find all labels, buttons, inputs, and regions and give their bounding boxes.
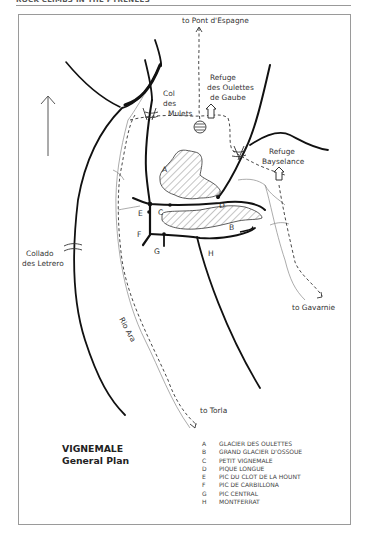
rivers — [113, 95, 305, 428]
legend-key: A — [202, 440, 219, 448]
legend-key: F — [202, 481, 219, 489]
legend-key: D — [202, 465, 219, 473]
legend-label: PIC DU CLOT DE LA HOUNT — [219, 473, 301, 481]
label-to-pont-despagne: to Pont d'Espagne — [182, 16, 249, 25]
label-refuge-oulettes-line3: de Gaube — [210, 93, 246, 102]
legend-item: HMONTFERRAT — [202, 498, 302, 506]
label-collado-des-letrero: Collado — [26, 249, 54, 258]
label-refuge-oulettes-line2: des Oulettes — [207, 83, 254, 92]
lake-icon — [194, 121, 206, 133]
map-title-line2: General Plan — [62, 455, 129, 467]
refuge-hut-icon — [206, 104, 284, 180]
point-label-f: F — [137, 230, 141, 239]
point-label-g: G — [154, 247, 160, 256]
label-refuge-oulettes: Refuge — [210, 73, 236, 82]
vignemale-map: to Pont d'Espagne Refuge des Oulettes de… — [0, 0, 366, 536]
map-title: VIGNEMALE General Plan — [62, 443, 129, 467]
legend-key: C — [202, 457, 219, 465]
glacier-a — [160, 150, 220, 199]
legend-item: CPETIT VIGNEMALE — [202, 457, 302, 465]
north-arrow-icon — [41, 96, 55, 156]
point-label-h: H — [208, 249, 214, 258]
legend-key: H — [202, 498, 219, 506]
legend-label: PETIT VIGNEMALE — [219, 457, 273, 465]
legend-label: PIC CENTRAL — [219, 490, 258, 498]
glacier-b — [162, 206, 262, 229]
label-to-gavarnie: to Gavarnie — [292, 303, 336, 312]
label-col-des-mulets-line3: Mulets — [168, 109, 193, 118]
legend-label: MONTFERRAT — [219, 498, 260, 506]
label-rio-ara: Rio Ara — [117, 316, 137, 344]
point-label-c: C — [158, 208, 163, 217]
label-to-torla: to Torla — [200, 406, 227, 415]
col-pass-icon — [64, 108, 246, 251]
label-refuge-bayselance-line2: Bayselance — [262, 157, 305, 166]
legend: AGLACIER DES OULETTES BGRAND GLACIER D'O… — [202, 440, 302, 506]
legend-item: DPIQUE LONGUE — [202, 465, 302, 473]
legend-label: PIC DE CARBILLONA — [219, 481, 279, 489]
label-collado-des-letrero-line2: des Letrero — [22, 259, 64, 268]
legend-item: BGRAND GLACIER D'OSSOUE — [202, 448, 302, 456]
point-label-a: A — [162, 165, 168, 174]
point-label-d: D — [219, 201, 225, 210]
legend-item: GPIC CENTRAL — [202, 490, 302, 498]
legend-key: G — [202, 490, 219, 498]
label-refuge-bayselance: Refuge — [269, 147, 295, 156]
map-title-line1: VIGNEMALE — [62, 443, 129, 455]
legend-label: PIQUE LONGUE — [219, 465, 264, 473]
label-col-des-mulets-line2: des — [163, 99, 176, 108]
point-label-e: E — [138, 209, 143, 218]
legend-label: GRAND GLACIER D'OSSOUE — [219, 448, 302, 456]
legend-key: E — [202, 473, 219, 481]
legend-label: GLACIER DES OULETTES — [219, 440, 292, 448]
legend-key: B — [202, 448, 219, 456]
label-col-des-mulets: Col — [163, 89, 175, 98]
point-label-b: B — [229, 223, 234, 232]
legend-item: AGLACIER DES OULETTES — [202, 440, 302, 448]
legend-item: FPIC DE CARBILLONA — [202, 481, 302, 489]
legend-item: EPIC DU CLOT DE LA HOUNT — [202, 473, 302, 481]
